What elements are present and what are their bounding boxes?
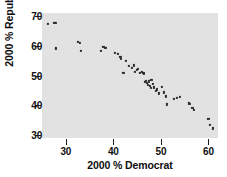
y-tick-label: 30	[16, 130, 42, 141]
data-point	[54, 22, 56, 24]
data-point	[137, 68, 139, 70]
data-point	[193, 109, 195, 111]
plot-panel	[42, 13, 218, 138]
y-tick-label: 40	[16, 100, 42, 111]
y-tick-label: 50	[16, 70, 42, 81]
data-point	[125, 60, 127, 62]
data-point	[120, 58, 122, 60]
x-tick-mark	[161, 139, 162, 145]
x-tick-label: 50	[146, 146, 176, 157]
data-point	[47, 23, 49, 25]
data-point	[127, 65, 129, 67]
data-point	[212, 127, 214, 129]
data-point	[150, 87, 152, 89]
data-point	[105, 47, 107, 49]
data-point	[179, 96, 181, 98]
data-points-layer	[42, 13, 218, 138]
data-point	[150, 79, 152, 81]
data-point	[133, 64, 135, 66]
x-tick-label: 40	[98, 146, 128, 157]
data-point	[79, 42, 81, 44]
data-point	[143, 73, 145, 75]
y-tick-label: 70	[16, 10, 42, 21]
data-point	[157, 92, 159, 94]
data-point	[55, 48, 57, 50]
data-point	[176, 96, 178, 98]
x-axis-title: 2000 % Democrat	[42, 159, 218, 171]
data-point	[189, 103, 191, 105]
data-point	[156, 88, 158, 90]
y-tick-label: 60	[16, 40, 42, 51]
data-point	[166, 103, 168, 105]
data-point	[207, 118, 209, 120]
data-point	[79, 50, 81, 52]
x-tick-mark	[66, 139, 67, 145]
data-point	[152, 83, 154, 85]
data-point	[122, 71, 124, 73]
x-tick-label: 60	[193, 146, 223, 157]
x-tick-mark	[208, 139, 209, 145]
data-point	[163, 91, 165, 93]
y-axis-title: 2000 % Republican	[2, 0, 16, 83]
data-point	[131, 67, 133, 69]
data-point	[165, 95, 167, 97]
data-point	[161, 86, 163, 88]
data-point	[173, 98, 175, 100]
data-point	[134, 71, 136, 73]
data-point	[209, 124, 211, 126]
scatter-plot-figure: 3040506070 30405060 2000 % Democrat 2000…	[0, 0, 227, 177]
x-tick-label: 30	[51, 146, 81, 157]
x-tick-mark	[113, 139, 114, 145]
data-point	[99, 50, 101, 52]
